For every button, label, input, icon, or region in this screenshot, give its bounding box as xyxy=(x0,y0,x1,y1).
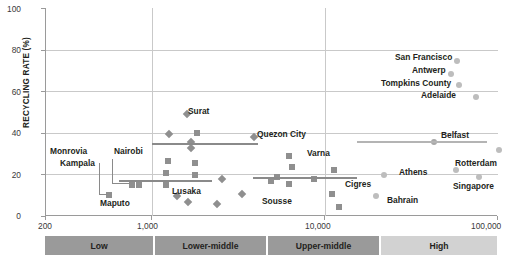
point-nairobi xyxy=(194,130,200,136)
point-lm-a xyxy=(165,130,173,138)
label-nairobi: Nairobi xyxy=(114,146,143,156)
point-low-b xyxy=(163,170,169,176)
x-tickmark-200 xyxy=(45,216,46,220)
y-tick-0: 0 xyxy=(0,211,21,221)
gridline-y20 xyxy=(46,174,498,175)
point-low-d xyxy=(192,172,198,178)
label-lusaka: Lusaka xyxy=(172,186,201,196)
label-antwerp: Antwerp xyxy=(412,65,446,75)
point-um-a xyxy=(289,164,295,170)
y-tick-100: 100 xyxy=(0,4,21,14)
point-singapore xyxy=(476,174,482,180)
gridline-y80 xyxy=(46,50,498,51)
leader-monrovia-v xyxy=(99,163,100,195)
x-tickmark-10000 xyxy=(324,216,325,220)
point-varna-sq xyxy=(286,153,292,159)
point-antwerp xyxy=(448,71,454,77)
point-high-a xyxy=(496,147,502,153)
label-sousse: Sousse xyxy=(262,196,292,206)
label-quezon-city: Quezon City xyxy=(257,129,306,139)
label-adelaide: Adelaide xyxy=(421,90,456,100)
point-athens xyxy=(381,172,387,178)
y-tick-40: 40 xyxy=(0,128,21,138)
leader-kampala-v xyxy=(112,159,113,183)
point-san-francisco xyxy=(454,58,460,64)
x-tick-10000: 10,000 xyxy=(305,221,331,231)
label-varna: Varna xyxy=(307,148,330,158)
x-tick-1000: 1,000 xyxy=(137,221,158,231)
x-tick-200: 200 xyxy=(38,221,52,231)
point-adelaide xyxy=(473,94,479,100)
point-tompkins-county xyxy=(456,82,462,88)
label-athens: Athens xyxy=(399,167,427,177)
median-line-high xyxy=(357,141,487,143)
label-tompkins-county: Tompkins County xyxy=(381,78,451,88)
band-low: Low xyxy=(45,236,155,255)
y-tick-20: 20 xyxy=(0,170,21,180)
point-lm-d xyxy=(184,198,192,206)
point-um-e xyxy=(329,191,335,197)
label-belfast: Belfast xyxy=(441,130,469,140)
point-low-a xyxy=(136,182,142,188)
median-line-low xyxy=(119,180,212,182)
point-lm-e xyxy=(218,175,226,183)
label-monrovia: Monrovia xyxy=(50,146,87,156)
plot-area xyxy=(45,8,497,216)
label-singapore: Singapore xyxy=(453,181,494,191)
y-tick-80: 80 xyxy=(0,45,21,55)
median-line-lower-middle xyxy=(152,143,258,145)
point-bahrain xyxy=(373,193,379,199)
leader-monrovia-h xyxy=(99,194,107,195)
point-um-c xyxy=(286,181,292,187)
label-bahrain: Bahrain xyxy=(387,195,418,205)
point-lm-g xyxy=(238,190,246,198)
point-um-f xyxy=(336,204,342,210)
label-surat: Surat xyxy=(188,106,209,116)
label-cigres: Cigres xyxy=(345,179,371,189)
band-upper-middle: Upper-middle xyxy=(268,236,381,255)
median-line-upper-middle xyxy=(253,177,357,179)
gridline-x1000 xyxy=(152,8,153,216)
label-san-francisco: San Francisco xyxy=(395,52,452,62)
gridline-x10000 xyxy=(325,8,326,216)
chart-root: RECYCLING RATE (%) 100 80 60 40 20 0 xyxy=(0,0,524,268)
point-nairobi-sq xyxy=(165,158,171,164)
income-band-bar: Low Lower-middle Upper-middle High xyxy=(45,236,497,255)
band-lower-middle: Lower-middle xyxy=(155,236,268,255)
label-kampala: Kampala xyxy=(60,158,95,168)
label-rotterdam: Rotterdam xyxy=(455,158,497,168)
x-tick-100000: 100,000 xyxy=(471,221,501,231)
x-tickmark-100000 xyxy=(497,216,498,220)
band-high: High xyxy=(381,236,497,255)
point-cigres xyxy=(331,167,337,173)
point-lm-f xyxy=(213,200,221,208)
y-axis-title: RECYCLING RATE (%) xyxy=(22,13,31,153)
y-tick-60: 60 xyxy=(0,87,21,97)
x-tickmark-1000 xyxy=(151,216,152,220)
label-maputo: Maputo xyxy=(100,198,130,208)
point-low-c xyxy=(192,160,198,166)
point-maputo xyxy=(163,182,169,188)
leader-kampala-h xyxy=(112,183,130,184)
